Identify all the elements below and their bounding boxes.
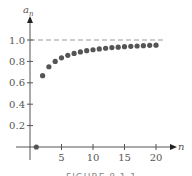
x-axis-label: n (178, 141, 184, 152)
axes: 0.20.40.60.81.05101520 (9, 16, 177, 163)
y-tick-label: 0.6 (9, 77, 25, 88)
data-point (147, 43, 152, 48)
data-point (103, 46, 108, 51)
y-tick-label: 1.0 (9, 35, 25, 46)
y-tick-label: 0.8 (9, 56, 25, 67)
data-point (53, 59, 58, 64)
data-point (65, 53, 70, 58)
data-point (84, 48, 89, 53)
x-tick-label: 5 (58, 152, 64, 163)
data-point (46, 64, 51, 69)
data-point (90, 47, 95, 52)
data-point (72, 51, 77, 56)
x-tick-label: 15 (118, 152, 131, 163)
data-point (59, 55, 64, 60)
data-point (78, 49, 83, 54)
x-tick-label: 10 (87, 152, 100, 163)
y-tick-label: 0.2 (9, 120, 25, 131)
data-point (34, 144, 39, 149)
data-point (109, 45, 114, 50)
data-point (153, 43, 158, 48)
data-points (34, 43, 159, 150)
figure-caption: FIGURE 8.1.1 (66, 172, 137, 176)
x-tick-label: 20 (150, 152, 163, 163)
data-point (128, 44, 133, 49)
y-tick-label: 0.4 (9, 99, 25, 110)
data-point (40, 73, 45, 78)
data-point (135, 43, 140, 48)
data-point (116, 45, 121, 50)
data-point (122, 44, 127, 49)
sequence-chart: 0.20.40.60.81.05101520 an n FIGURE 8.1.1 (0, 0, 192, 176)
y-axis-label: an (23, 4, 34, 18)
x-axis-arrow-icon (170, 144, 177, 150)
data-point (141, 43, 146, 48)
data-point (97, 46, 102, 51)
